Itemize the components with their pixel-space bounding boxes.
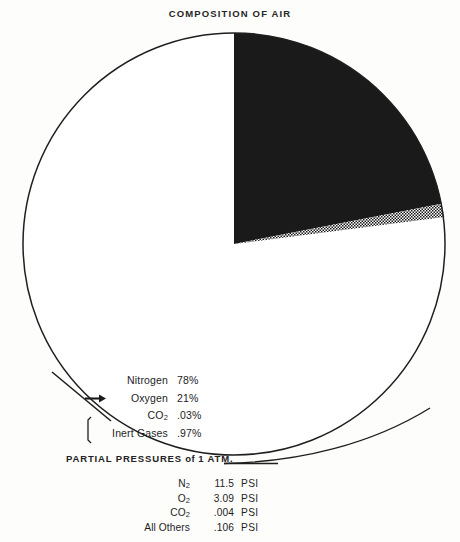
table-row: CO2 .004 PSI bbox=[122, 507, 258, 522]
pp-gas-all-others: All Others bbox=[122, 522, 190, 534]
pp-gas-o2: O2 bbox=[122, 493, 190, 505]
pp-unit-all-others: PSI bbox=[234, 522, 258, 533]
partial-pressures-heading: PARTIAL PRESSURES of 1 ATM. bbox=[66, 453, 233, 464]
pp-gas-all-others-text: All Others bbox=[144, 522, 190, 533]
pp-unit-co2: PSI bbox=[234, 507, 258, 518]
pp-value-co2: .004 bbox=[190, 507, 234, 518]
pp-gas-o2-text: O bbox=[178, 493, 186, 504]
pp-value-o2: 3.09 bbox=[190, 493, 234, 504]
list-item: CO2 .03% bbox=[96, 409, 256, 427]
legend-label-co2: CO2 bbox=[96, 409, 168, 422]
pie-legend: Nitrogen 78% Oxygen 21% CO2 .03% Inert G… bbox=[96, 374, 256, 444]
partial-pressures-heading-tail: 1 ATM. bbox=[198, 453, 233, 464]
legend-value-oxygen: 21% bbox=[168, 392, 223, 404]
bracket-leader-inert-gases bbox=[88, 417, 91, 443]
pp-value-all-others: .106 bbox=[190, 522, 234, 533]
table-row: N2 11.5 PSI bbox=[122, 478, 258, 493]
legend-value-nitrogen: 78% bbox=[168, 374, 223, 386]
legend-label-inert-gases: Inert Gases bbox=[96, 427, 168, 439]
list-item: Oxygen 21% bbox=[96, 392, 256, 410]
table-row: All Others .106 PSI bbox=[122, 522, 258, 537]
pp-gas-co2-text: CO bbox=[170, 507, 185, 518]
partial-pressures-table: N2 11.5 PSI O2 3.09 PSI CO2 .004 PSI All… bbox=[122, 478, 258, 536]
pp-gas-n2: N2 bbox=[122, 478, 190, 490]
heading-of-text: of bbox=[185, 453, 195, 464]
pp-gas-co2: CO2 bbox=[122, 507, 190, 519]
list-item: Inert Gases .97% bbox=[96, 427, 256, 445]
table-row: O2 3.09 PSI bbox=[122, 493, 258, 508]
figure-page: COMPOSITION OF AIR bbox=[0, 0, 460, 542]
pp-unit-n2: PSI bbox=[234, 478, 258, 489]
pp-value-n2: 11.5 bbox=[190, 478, 234, 489]
legend-label-nitrogen: Nitrogen bbox=[96, 374, 168, 386]
pp-unit-o2: PSI bbox=[234, 493, 258, 504]
partial-pressures-heading-of: of bbox=[182, 453, 198, 464]
pp-gas-n2-text: N bbox=[178, 478, 185, 489]
legend-value-co2: .03% bbox=[168, 409, 223, 421]
partial-pressures-heading-main: PARTIAL PRESSURES bbox=[66, 453, 182, 464]
legend-label-oxygen: Oxygen bbox=[96, 392, 168, 404]
legend-value-inert-gases: .97% bbox=[168, 427, 223, 439]
legend-label-co2-text: CO bbox=[148, 409, 164, 421]
list-item: Nitrogen 78% bbox=[96, 374, 256, 392]
